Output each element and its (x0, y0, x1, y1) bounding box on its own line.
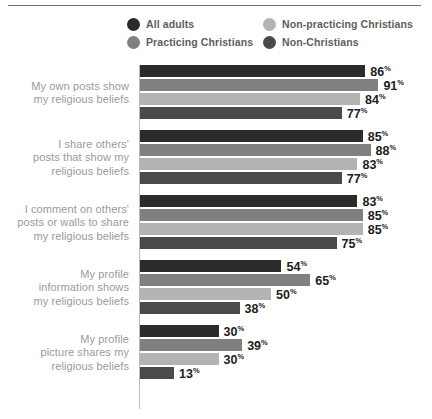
bar-row[interactable]: 83% (140, 194, 432, 208)
bar[interactable] (140, 237, 337, 249)
bar-row[interactable]: 91% (140, 78, 432, 92)
bar-group: I share others'posts that show myreligio… (0, 125, 432, 190)
category-label-line: religious beliefs (0, 164, 129, 178)
bar-row[interactable]: 39% (140, 338, 432, 352)
percent-symbol: % (238, 324, 245, 333)
percent-symbol: % (376, 157, 383, 166)
bar-value-label: 77% (347, 107, 368, 121)
bar-value-label: 83% (362, 158, 383, 172)
category-label: My profilepicture shares myreligious bel… (0, 332, 129, 373)
category-label-line: religious beliefs (0, 359, 129, 373)
category-label-line: my religious beliefs (0, 93, 129, 107)
bar-value-number: 75 (342, 237, 356, 251)
bar-value-label: 13% (179, 367, 200, 381)
category-label-line: My own posts show (0, 79, 129, 93)
percent-symbol: % (397, 78, 404, 87)
bar-value-number: 13 (179, 367, 193, 381)
bar-value-label: 30% (224, 353, 245, 367)
bar-value-label: 39% (247, 339, 268, 353)
bar-group: I comment on others'posts or walls to sh… (0, 190, 432, 255)
bar[interactable] (140, 353, 219, 365)
bar[interactable] (140, 288, 271, 300)
bar-row[interactable]: 88% (140, 143, 432, 157)
header-divider (8, 5, 421, 6)
bar[interactable] (140, 209, 363, 221)
bar-value-label: 84% (365, 93, 386, 107)
bar-row[interactable]: 86% (140, 64, 432, 78)
category-label: My profileinformation showsmy religious … (0, 267, 129, 308)
bar-row[interactable]: 30% (140, 352, 432, 366)
legend-item-non-christians[interactable]: Non-Christians (263, 33, 423, 51)
category-label-line: I comment on others' (0, 202, 129, 216)
bar-row[interactable]: 38% (140, 301, 432, 315)
bar[interactable] (140, 144, 371, 156)
bar-row[interactable]: 75% (140, 236, 432, 250)
bar[interactable] (140, 65, 365, 77)
bar-row[interactable]: 77% (140, 106, 432, 120)
bar[interactable] (140, 223, 363, 235)
bar-group: My profileinformation showsmy religious … (0, 255, 432, 320)
bar-row[interactable]: 50% (140, 287, 432, 301)
bars: 83%85%85%75% (140, 194, 432, 250)
bar-value-label: 85% (368, 223, 389, 237)
legend-item-practicing-christians[interactable]: Practicing Christians (127, 33, 263, 51)
bar-row[interactable]: 54% (140, 259, 432, 273)
percent-symbol: % (389, 143, 396, 152)
bar-row[interactable]: 83% (140, 157, 432, 171)
bar-value-number: 77 (347, 172, 361, 186)
bar[interactable] (140, 172, 342, 184)
bar[interactable] (140, 339, 242, 351)
percent-symbol: % (329, 273, 336, 282)
percent-symbol: % (361, 171, 368, 180)
category-label: My own posts showmy religious beliefs (0, 79, 129, 106)
bar-row[interactable]: 30% (140, 324, 432, 338)
bar-row[interactable]: 84% (140, 92, 432, 106)
bar-value-number: 38 (245, 302, 259, 316)
bar-row[interactable]: 85% (140, 129, 432, 143)
legend-item-non-practicing-christians[interactable]: Non-practicing Christians (263, 15, 423, 33)
bar-value-label: 85% (368, 209, 389, 223)
legend-label: All adults (146, 18, 194, 30)
bar-value-label: 83% (362, 195, 383, 209)
category-label: I comment on others'posts or walls to sh… (0, 202, 129, 243)
bar-row[interactable]: 85% (140, 208, 432, 222)
bar-value-label: 38% (245, 302, 266, 316)
bar[interactable] (140, 302, 240, 314)
bar-row[interactable]: 13% (140, 366, 432, 380)
percent-symbol: % (361, 106, 368, 115)
bar[interactable] (140, 130, 363, 142)
bar[interactable] (140, 158, 357, 170)
bar[interactable] (140, 325, 219, 337)
percent-symbol: % (290, 287, 297, 296)
category-label-line: picture shares my (0, 346, 129, 360)
bar[interactable] (140, 260, 281, 272)
bar-row[interactable]: 65% (140, 273, 432, 287)
category-label: I share others'posts that show myreligio… (0, 137, 129, 178)
bar[interactable] (140, 274, 310, 286)
bar-value-label: 88% (376, 144, 397, 158)
legend-item-all-adults[interactable]: All adults (127, 15, 263, 33)
bar-value-number: 77 (347, 107, 361, 121)
bar[interactable] (140, 107, 342, 119)
percent-symbol: % (379, 92, 386, 101)
bar-value-label: 65% (315, 274, 336, 288)
bar-value-label: 91% (383, 79, 404, 93)
percent-symbol: % (384, 64, 391, 73)
category-label-line: My profile (0, 267, 129, 281)
bar[interactable] (140, 367, 174, 379)
chart-legend: All adultsNon-practicing ChristiansPract… (127, 15, 427, 51)
percent-symbol: % (382, 222, 389, 231)
category-label-line: information shows (0, 281, 129, 295)
bar-value-label: 75% (342, 237, 363, 251)
bar-row[interactable]: 85% (140, 222, 432, 236)
legend-label: Practicing Christians (146, 36, 253, 48)
bar-row[interactable]: 77% (140, 171, 432, 185)
legend-label: Non-practicing Christians (282, 18, 413, 30)
bar[interactable] (140, 195, 357, 207)
category-label-line: my religious beliefs (0, 229, 129, 243)
category-label-line: posts or walls to share (0, 216, 129, 230)
legend-dot-icon (127, 36, 140, 49)
bar[interactable] (140, 79, 378, 91)
bar[interactable] (140, 93, 360, 105)
category-label-line: My profile (0, 332, 129, 346)
